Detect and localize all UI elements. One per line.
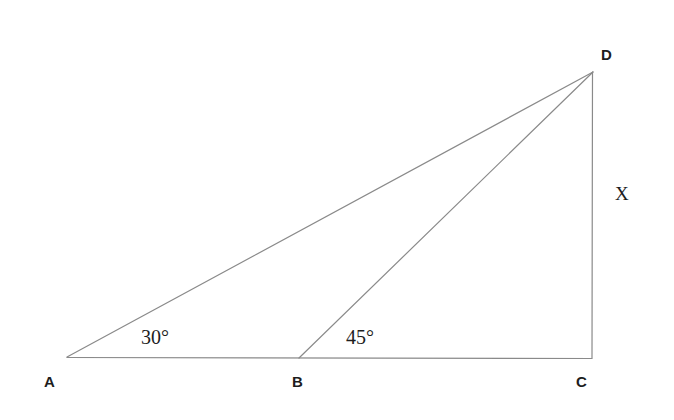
vertex-label-b: B [292, 374, 303, 389]
vertex-label-d: D [601, 47, 612, 62]
segment-AD [67, 72, 593, 357]
segment-DC [592, 72, 593, 358]
vertex-label-c: C [576, 374, 587, 389]
vertex-label-a: A [44, 374, 55, 389]
segment-BD [299, 72, 593, 358]
segment-AC [67, 358, 592, 359]
side-label-dc: X [615, 184, 629, 203]
geometry-canvas [0, 0, 674, 420]
geometry-figure: A B C D 30° 45° X [0, 0, 674, 420]
angle-label-at-a: 30° [141, 327, 169, 347]
angle-label-at-b: 45° [346, 327, 374, 347]
